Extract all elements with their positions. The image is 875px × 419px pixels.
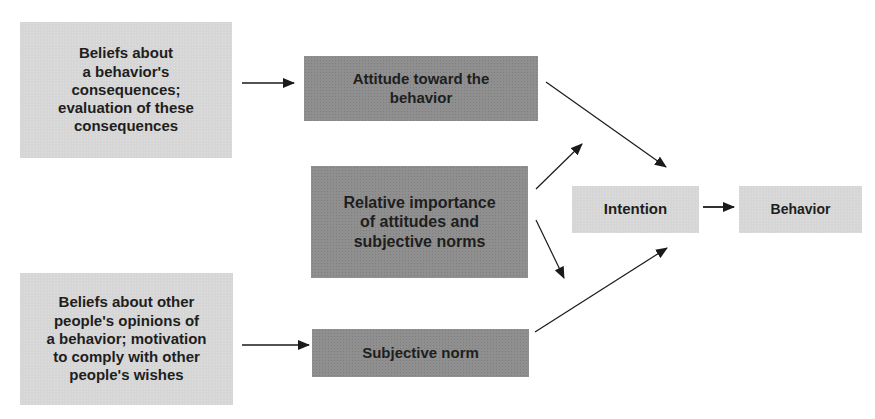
arrow-relative-to-attitude bbox=[536, 144, 582, 189]
node-label: Attitude toward the behavior bbox=[353, 70, 490, 107]
node-relative-importance: Relative importance of attitudes and sub… bbox=[311, 166, 528, 278]
node-label: Beliefs about other people's opinions of… bbox=[46, 293, 206, 384]
node-subjective-norm: Subjective norm bbox=[312, 329, 529, 377]
arrow-relative-to-subjective bbox=[536, 220, 564, 278]
node-label: Relative importance of attitudes and sub… bbox=[343, 193, 495, 252]
node-beliefs-about-consequences: Beliefs about a behavior's consequences;… bbox=[20, 22, 232, 158]
node-label: Subjective norm bbox=[362, 344, 479, 362]
node-label: Intention bbox=[604, 200, 667, 218]
node-intention: Intention bbox=[572, 186, 699, 233]
arrow-subjective-to-intention bbox=[535, 248, 667, 332]
arrow-attitude-to-intention bbox=[546, 82, 666, 167]
node-beliefs-about-others-opinions: Beliefs about other people's opinions of… bbox=[20, 273, 233, 405]
node-attitude-toward-behavior: Attitude toward the behavior bbox=[304, 56, 538, 121]
node-label: Behavior bbox=[771, 201, 831, 218]
node-behavior: Behavior bbox=[739, 186, 862, 233]
node-label: Beliefs about a behavior's consequences;… bbox=[58, 44, 194, 135]
